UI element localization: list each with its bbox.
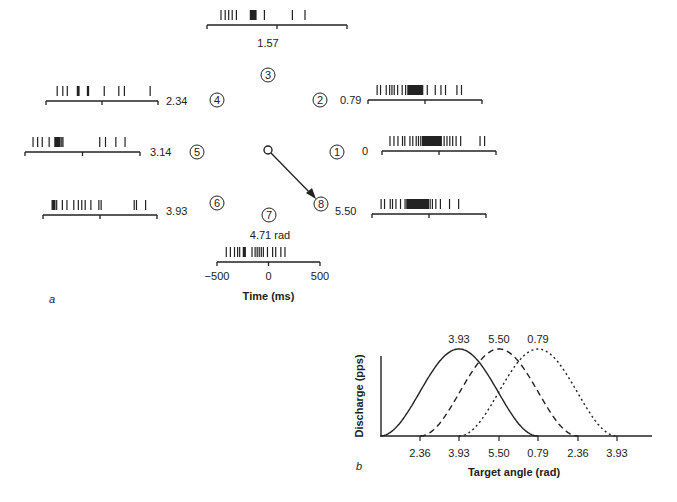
panel-b-label: b	[356, 460, 362, 472]
target-number: 6	[214, 197, 220, 209]
x-tick-label: 2.36	[409, 447, 430, 459]
curve-peak-label: 5.50	[488, 333, 509, 345]
angle-label: 5.50	[335, 205, 356, 217]
target-number: 3	[265, 69, 271, 81]
curve-peak-label: 3.93	[448, 333, 469, 345]
x-tick-label: 3.93	[448, 447, 469, 459]
spike-burst	[52, 200, 55, 210]
y-axis-title-b: Discharge (pps)	[353, 354, 365, 437]
x-tick-label: 5.50	[488, 447, 509, 459]
figure-canvas: 010.7921.5732.3443.1453.9364.71 rad75.50…	[0, 0, 677, 502]
raster-target-7: 4.71 rad7	[217, 208, 320, 266]
target-number: 4	[214, 94, 220, 106]
target-number: 2	[317, 94, 323, 106]
movement-arrow-line	[271, 153, 313, 196]
x-axis-title-b: Target angle (rad)	[468, 466, 560, 478]
time-axis-title: Time (ms)	[243, 290, 295, 302]
target-number: 7	[266, 209, 272, 221]
angle-label: 1.57	[257, 37, 278, 49]
curve-peak-label: 0.79	[527, 333, 548, 345]
x-tick-label: 0.79	[527, 447, 548, 459]
raster-target-1: 01	[330, 136, 496, 159]
angle-label: 0	[362, 145, 368, 157]
x-tick-label: 3.93	[606, 447, 627, 459]
raster-target-2: 0.792	[313, 85, 482, 107]
spike-burst	[422, 136, 441, 146]
time-tick-label: −500	[205, 270, 230, 282]
angle-label: 0.79	[340, 94, 361, 106]
spike-burst	[406, 199, 429, 209]
spike-burst	[408, 85, 423, 95]
target-number: 1	[334, 146, 340, 158]
time-tick-label: 0	[265, 270, 271, 282]
panel-a-label: a	[49, 293, 55, 305]
raster-target-8: 5.508	[314, 197, 486, 218]
target-number: 8	[318, 198, 324, 210]
spike-burst	[243, 247, 246, 257]
angle-label: 3.14	[150, 146, 171, 158]
raster-target-5: 3.145	[25, 137, 204, 159]
angle-label: 4.71 rad	[250, 229, 290, 241]
spike-burst	[55, 137, 61, 147]
x-tick-label: 2.36	[567, 447, 588, 459]
target-number: 5	[194, 146, 200, 158]
raster-target-4: 2.344	[46, 86, 224, 107]
spike-burst	[250, 10, 256, 20]
time-tick-label: 500	[311, 270, 329, 282]
angle-label: 3.93	[166, 205, 187, 217]
raster-target-3: 1.573	[207, 10, 347, 82]
spike-burst	[77, 86, 79, 96]
raster-target-6: 3.936	[43, 196, 224, 219]
angle-label: 2.34	[166, 95, 187, 107]
start-position-circle-icon	[264, 146, 272, 154]
